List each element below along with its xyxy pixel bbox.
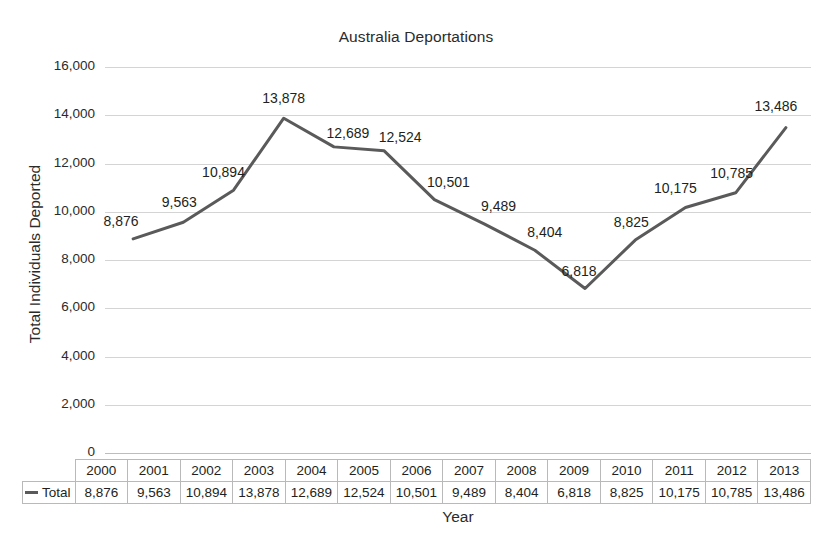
table-cell-2007: 9,489 (443, 482, 496, 504)
y-tick-label-12000: 12,000 (0, 155, 95, 170)
series-total-line (105, 67, 811, 453)
table-header-2000: 2000 (75, 460, 128, 482)
table-corner-cell (23, 460, 76, 482)
y-tick-label-8000: 8,000 (0, 251, 95, 266)
data-label-2006: 10,501 (427, 174, 470, 190)
data-label-2007: 9,489 (481, 198, 516, 214)
table-cell-2008: 8,404 (495, 482, 548, 504)
table-header-2003: 2003 (233, 460, 286, 482)
data-label-2011: 10,175 (654, 180, 697, 196)
chart-container: Australia Deportations Total Individuals… (0, 0, 832, 534)
data-label-2002: 10,894 (202, 164, 245, 180)
table-header-2002: 2002 (180, 460, 233, 482)
table-header-2008: 2008 (495, 460, 548, 482)
table-cell-2002: 10,894 (180, 482, 233, 504)
data-label-2012: 10,785 (710, 165, 753, 181)
data-label-2004: 12,689 (327, 125, 370, 141)
legend-entry-total: Total (23, 482, 76, 504)
data-label-2010: 8,825 (614, 214, 649, 230)
data-label-2001: 9,563 (162, 194, 197, 210)
legend-label: Total (42, 485, 71, 500)
y-tick-label-4000: 4,000 (0, 348, 95, 363)
y-tick-label-14000: 14,000 (0, 106, 95, 121)
table-header-2010: 2010 (600, 460, 653, 482)
table-header-2004: 2004 (285, 460, 338, 482)
y-tick-label-10000: 10,000 (0, 203, 95, 218)
table-cell-2009: 6,818 (548, 482, 601, 504)
table-header-2005: 2005 (338, 460, 391, 482)
table-header-2013: 2013 (758, 460, 811, 482)
table-cell-2005: 12,524 (338, 482, 391, 504)
line-path-total (133, 118, 786, 288)
data-table: 2000200120022003200420052006200720082009… (22, 459, 811, 504)
y-tick-label-6000: 6,000 (0, 299, 95, 314)
table-header-2009: 2009 (548, 460, 601, 482)
x-axis-title: Year (105, 508, 811, 526)
y-tick-label-16000: 16,000 (0, 58, 95, 73)
data-label-2005: 12,524 (379, 129, 422, 145)
table-cell-2004: 12,689 (285, 482, 338, 504)
table-cell-2012: 10,785 (705, 482, 758, 504)
table-cell-2013: 13,486 (758, 482, 811, 504)
data-label-2009: 6,818 (562, 263, 597, 279)
table-cell-2000: 8,876 (75, 482, 128, 504)
table-header-2012: 2012 (705, 460, 758, 482)
data-label-2008: 8,404 (527, 224, 562, 240)
table-cell-2001: 9,563 (128, 482, 181, 504)
data-table-wrapper: 2000200120022003200420052006200720082009… (22, 459, 811, 504)
data-label-2000: 8,876 (104, 213, 139, 229)
legend-line-swatch-icon (25, 491, 38, 494)
gridline-0 (105, 453, 811, 454)
table-row: Total8,8769,56310,89413,87812,68912,5241… (23, 482, 811, 504)
y-tick-label-2000: 2,000 (0, 396, 95, 411)
table-header-2011: 2011 (653, 460, 706, 482)
table-cell-2006: 10,501 (390, 482, 443, 504)
data-label-2003: 13,878 (262, 90, 305, 106)
table-cell-2011: 10,175 (653, 482, 706, 504)
y-tick-label-0: 0 (0, 444, 95, 459)
data-label-2013: 13,486 (754, 98, 797, 114)
table-header-2006: 2006 (390, 460, 443, 482)
table-header-2001: 2001 (128, 460, 181, 482)
table-header-2007: 2007 (443, 460, 496, 482)
table-cell-2003: 13,878 (233, 482, 286, 504)
table-cell-2010: 8,825 (600, 482, 653, 504)
table-header-row: 2000200120022003200420052006200720082009… (23, 460, 811, 482)
chart-title: Australia Deportations (0, 28, 832, 46)
